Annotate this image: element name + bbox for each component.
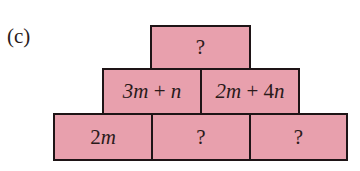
pyramid-bottom-cell-right: ? xyxy=(249,113,348,161)
pyramid-middle-cell-right: 2m + 4n 2m + 4n xyxy=(200,68,300,115)
cell-text: ? xyxy=(196,127,205,148)
cell-text: ? xyxy=(196,37,205,58)
cell-text: ? xyxy=(294,127,303,148)
pyramid-bottom-cell-middle: ? xyxy=(151,113,251,161)
pyramid-bottom-cell-left: 2m 2m xyxy=(53,113,153,161)
figure-label: (c) xyxy=(7,26,30,47)
cell-text: 2m + 4n xyxy=(215,81,284,102)
pyramid-middle-cell-left: 3m + n 3m + n xyxy=(102,68,202,115)
cell-text: 3m + n xyxy=(123,81,182,102)
cell-text: 2m xyxy=(90,127,116,148)
pyramid-top-cell: ? xyxy=(150,25,251,70)
